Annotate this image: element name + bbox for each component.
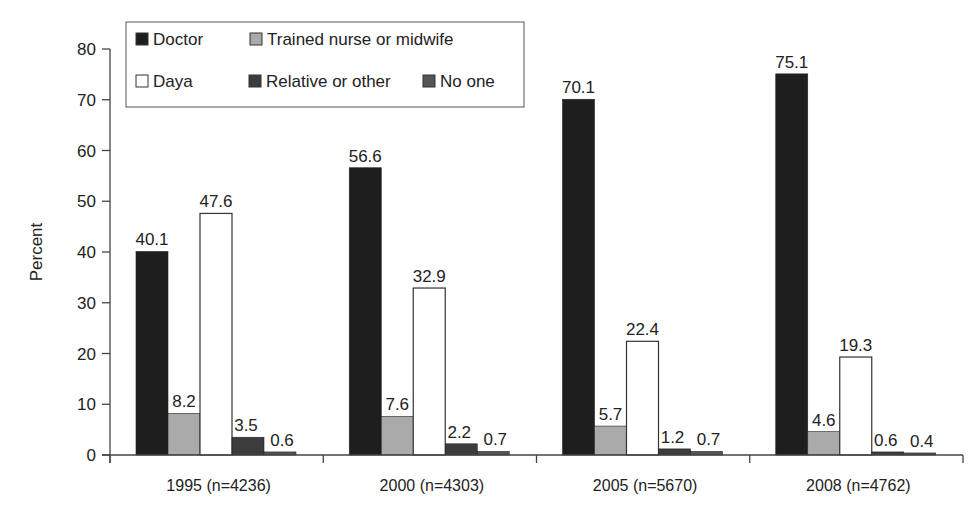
legend-swatch-relative-or-other — [249, 75, 261, 87]
legend-label: Doctor — [153, 30, 203, 49]
bar-daya-2 — [627, 341, 659, 455]
y-tick-label: 70 — [77, 91, 96, 110]
bar-value-label: 1.2 — [661, 428, 685, 447]
bars-layer — [136, 74, 936, 455]
bar-value-label: 0.4 — [910, 432, 934, 451]
bar-relative-or-other-1 — [445, 444, 477, 455]
legend-label: Daya — [153, 72, 193, 91]
y-tick-label: 30 — [77, 294, 96, 313]
bar-daya-1 — [413, 288, 445, 455]
x-category-label: 1995 (n=4236) — [166, 477, 271, 494]
bar-value-label: 0.6 — [874, 431, 898, 450]
bar-trained-nurse-or-midwife-2 — [595, 426, 627, 455]
bar-trained-nurse-or-midwife-1 — [381, 416, 413, 455]
bar-doctor-0 — [136, 251, 168, 455]
legend-swatch-trained-nurse-or-midwife — [250, 33, 262, 45]
bar-doctor-3 — [776, 74, 808, 455]
bar-value-label: 0.7 — [483, 430, 507, 449]
bar-value-label: 19.3 — [839, 336, 872, 355]
bar-value-label: 0.6 — [270, 431, 294, 450]
bar-value-label: 32.9 — [413, 267, 446, 286]
bar-relative-or-other-2 — [659, 449, 691, 455]
y-tick-label: 80 — [77, 40, 96, 59]
legend-label: No one — [440, 72, 495, 91]
bar-value-label: 5.7 — [599, 405, 623, 424]
bar-value-label: 22.4 — [626, 320, 659, 339]
bar-value-label: 47.6 — [199, 192, 232, 211]
bar-value-label: 7.6 — [385, 395, 409, 414]
bar-daya-0 — [200, 213, 232, 455]
bar-value-label: 4.6 — [812, 411, 836, 430]
x-category-label: 2005 (n=5670) — [593, 477, 698, 494]
y-axis-title: Percent — [27, 222, 46, 281]
x-ticks-layer: 1995 (n=4236)2000 (n=4303)2005 (n=5670)2… — [110, 455, 963, 494]
legend: DoctorTrained nurse or midwifeDayaRelati… — [126, 22, 524, 107]
x-category-label: 2008 (n=4762) — [806, 477, 911, 494]
bar-chart: 40.156.670.175.18.27.65.74.647.632.922.4… — [0, 0, 977, 525]
bar-trained-nurse-or-midwife-3 — [808, 432, 840, 455]
bar-doctor-2 — [563, 99, 595, 455]
bar-daya-3 — [840, 357, 872, 455]
bar-value-label: 8.2 — [172, 392, 196, 411]
y-tick-label: 60 — [77, 142, 96, 161]
bar-doctor-1 — [349, 168, 381, 455]
y-tick-label: 40 — [77, 243, 96, 262]
y-tick-label: 50 — [77, 192, 96, 211]
x-category-label: 2000 (n=4303) — [380, 477, 485, 494]
bar-trained-nurse-or-midwife-0 — [168, 413, 200, 455]
bar-value-label: 75.1 — [775, 53, 808, 72]
y-ticks-layer: 01020304050607080 — [77, 40, 110, 465]
bar-value-label: 0.7 — [697, 430, 721, 449]
legend-label: Relative or other — [266, 72, 391, 91]
legend-swatch-no-one — [423, 75, 435, 87]
legend-swatch-daya — [136, 75, 148, 87]
y-tick-label: 20 — [77, 345, 96, 364]
bar-value-label: 40.1 — [135, 230, 168, 249]
legend-label: Trained nurse or midwife — [267, 30, 453, 49]
bar-value-label: 2.2 — [447, 423, 471, 442]
bar-value-label: 70.1 — [562, 78, 595, 97]
y-tick-label: 10 — [77, 395, 96, 414]
bar-value-label: 56.6 — [349, 147, 382, 166]
bar-labels-layer: 40.156.670.175.18.27.65.74.647.632.922.4… — [135, 53, 933, 451]
bar-value-label: 3.5 — [234, 416, 258, 435]
y-tick-label: 0 — [87, 446, 96, 465]
bar-relative-or-other-0 — [232, 437, 264, 455]
legend-swatch-doctor — [136, 33, 148, 45]
